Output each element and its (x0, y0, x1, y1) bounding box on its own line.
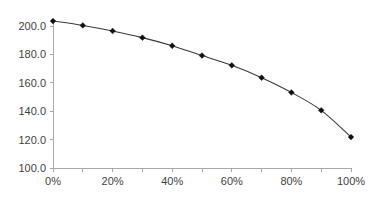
y-tick-label: 120.0 (18, 134, 46, 146)
y-tick-label: 140.0 (18, 105, 46, 117)
x-axis-ticks (53, 168, 351, 172)
data-point-marker (140, 35, 146, 41)
x-tick-label: 100% (337, 175, 365, 187)
data-point-marker (169, 43, 175, 49)
y-tick-label: 200.0 (18, 20, 46, 32)
chart-canvas: 100.0120.0140.0160.0180.0200.0 0%20%40%6… (0, 0, 381, 203)
data-point-marker (259, 75, 265, 81)
data-point-marker (110, 28, 116, 34)
line-chart: 100.0120.0140.0160.0180.0200.0 0%20%40%6… (0, 0, 381, 203)
data-point-marker (229, 62, 235, 68)
y-tick-label: 100.0 (18, 162, 46, 174)
x-tick-label: 80% (280, 175, 302, 187)
x-tick-label: 0% (45, 175, 61, 187)
x-tick-label: 20% (102, 175, 124, 187)
data-point-marker (50, 18, 56, 24)
data-point-marker (80, 23, 86, 29)
data-point-marker (289, 90, 295, 96)
y-axis-tick-labels: 100.0120.0140.0160.0180.0200.0 (18, 20, 46, 174)
y-tick-label: 160.0 (18, 77, 46, 89)
x-tick-label: 40% (161, 175, 183, 187)
x-tick-label: 60% (221, 175, 243, 187)
y-tick-label: 180.0 (18, 48, 46, 60)
series-1-markers (50, 18, 354, 140)
data-point-marker (199, 53, 205, 59)
x-axis-tick-labels: 0%20%40%60%80%100% (45, 175, 365, 187)
series-1-line (53, 21, 351, 137)
